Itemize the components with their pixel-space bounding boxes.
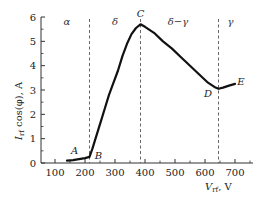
x-tick-label: 500 [165,167,184,178]
x-tick-label: 100 [45,167,64,178]
y-tick-label: 4 [30,60,36,71]
point-label: E [236,76,245,87]
y-tick-label: 5 [30,36,36,47]
x-tick-label: 200 [75,167,94,178]
y-axis-label: Irf cos(φ), A [13,81,26,141]
y-tick-label: 6 [30,12,36,23]
x-tick-label: 600 [195,167,214,178]
y-tick-label: 3 [30,85,36,96]
x-tick-label: 300 [105,167,124,178]
x-axis-label: Vrf, V [205,181,233,194]
region-label: α [64,16,71,27]
x-tick-label: 400 [135,167,154,178]
region-label: γ [228,16,234,27]
region-label: δ [112,16,118,27]
point-label: B [94,150,102,161]
chart: 0123456100200300400500600700 αδδ−γγABCDE… [0,0,263,201]
point-label: C [137,8,145,19]
region-dividers [90,19,219,163]
y-tick-label: 2 [30,109,36,120]
point-label: A [70,145,78,156]
y-tick-label: 0 [30,158,36,169]
axes: 0123456100200300400500600700 [30,12,253,178]
y-tick-label: 1 [30,133,36,144]
region-label: δ−γ [168,16,188,27]
point-label: D [203,88,212,99]
x-tick-label: 700 [225,167,244,178]
